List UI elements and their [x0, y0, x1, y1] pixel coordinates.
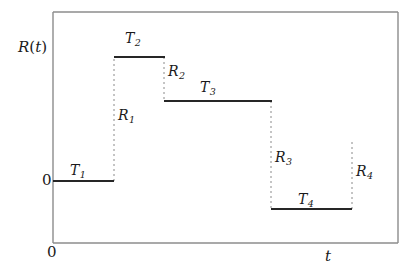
y-axis-label-base: R: [18, 38, 29, 56]
jump-label-R3: R3: [275, 150, 292, 167]
segment-label-T3-base: T: [200, 79, 209, 95]
jump-label-R4-base: R: [356, 163, 367, 179]
segment-label-T2-base: T: [125, 30, 134, 46]
jump-label-R1-subscript: 1: [129, 114, 135, 125]
segment-label-T2: T2: [125, 31, 141, 48]
y-origin-label: 0: [42, 173, 52, 188]
y-axis-label: R(t): [18, 40, 47, 55]
jump-label-R1: R1: [118, 108, 135, 125]
segment-label-T1-subscript: 1: [80, 169, 86, 180]
x-axis-label: t: [325, 249, 331, 264]
segment-label-T2-subscript: 2: [135, 37, 141, 48]
jump-label-R2: R2: [168, 64, 185, 81]
jump-label-R3-base: R: [275, 149, 286, 165]
plot-canvas: [0, 0, 417, 275]
segment-label-T4-base: T: [298, 191, 307, 207]
jump-label-R2-subscript: 2: [179, 70, 185, 81]
segment-label-T3: T3: [200, 80, 216, 97]
segment-label-T4: T4: [298, 192, 314, 209]
segment-label-T1-base: T: [70, 162, 79, 178]
jump-label-R1-base: R: [118, 107, 129, 123]
jump-label-R4-subscript: 4: [367, 170, 373, 181]
jump-label-R3-subscript: 3: [286, 156, 292, 167]
y-axis-label-close-paren: ): [41, 38, 47, 56]
jump-label-R2-base: R: [168, 63, 179, 79]
jump-lines: [114, 57, 352, 209]
step-function-figure: R(t) 0 0 t T1 T2 T3 T4 R1 R2 R3 R4: [0, 0, 417, 275]
jump-label-R4: R4: [356, 164, 373, 181]
segment-label-T1: T1: [70, 163, 86, 180]
segment-label-T3-subscript: 3: [210, 86, 216, 97]
segment-label-T4-subscript: 4: [308, 198, 314, 209]
x-origin-label: 0: [47, 245, 57, 260]
